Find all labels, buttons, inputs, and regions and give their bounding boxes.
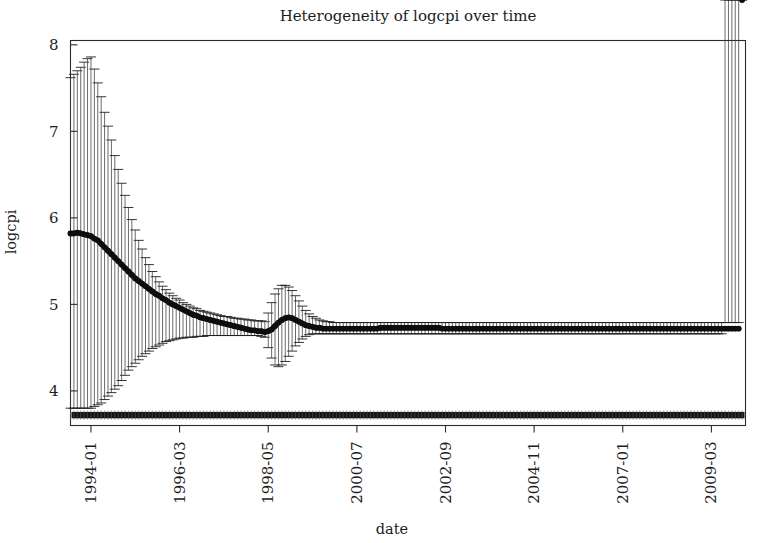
- y-tick-label: 4: [49, 382, 59, 400]
- x-axis-title: date: [376, 521, 408, 537]
- x-tick-label: 2004-11: [525, 442, 543, 504]
- y-axis-title: logcpi: [3, 209, 19, 254]
- mean-marker: [736, 326, 742, 332]
- x-tick-label: 1994-01: [82, 442, 100, 504]
- x-tick-label: 2000-07: [348, 442, 366, 504]
- y-tick-label: 8: [49, 36, 59, 54]
- x-tick-label: 2002-09: [437, 442, 455, 504]
- x-tick-label: 1996-03: [171, 442, 189, 504]
- y-tick-label: 7: [49, 123, 59, 141]
- y-tick-label: 5: [49, 296, 59, 314]
- chart-figure: Heterogeneity of logcpi over time 45678 …: [0, 0, 764, 543]
- chart-title: Heterogeneity of logcpi over time: [280, 7, 537, 25]
- x-tick-label: 2007-01: [614, 442, 632, 504]
- y-tick-label: 6: [49, 209, 59, 227]
- x-tick-label: 2009-03: [702, 442, 720, 504]
- x-tick-label: 1998-05: [259, 442, 277, 504]
